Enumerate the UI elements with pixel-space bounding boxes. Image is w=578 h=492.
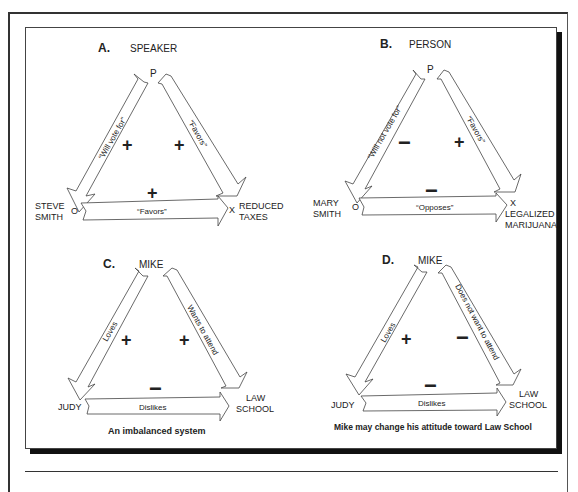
panel-title: SPEAKER (130, 43, 177, 54)
panel-d: D. MIKE Loves Does not want to attend Di… (331, 253, 547, 432)
panel-title: MIKE (418, 255, 443, 266)
right-node-line2: MARIJUANA (505, 220, 557, 230)
edge-label-bottom: Dislikes (418, 399, 446, 408)
sign-left: + (121, 330, 132, 350)
apex-label: P (427, 64, 434, 75)
edge-label-right: Wants to attend (185, 304, 220, 357)
sign-right: − (456, 325, 469, 350)
left-node-line2: SMITH (35, 212, 63, 222)
right-node-line2: SCHOOL (236, 404, 274, 414)
panel-a: A. SPEAKER P “Will vote for” “Favors” “F… (35, 41, 284, 226)
panel-c: C. MIKE Loves Wants to attend Dislikes +… (58, 257, 274, 436)
panel-letter: C. (103, 257, 115, 271)
right-node-line1: LAW (519, 389, 539, 399)
edge-label-bottom: Dislikes (139, 403, 167, 412)
right-node-mark: X (229, 205, 235, 215)
right-node-line1: REDUCED (239, 201, 284, 211)
caption: Mike may change his attitude toward Law … (334, 422, 532, 432)
sign-bottom: + (147, 183, 158, 203)
sign-right: + (174, 135, 185, 155)
left-node-line2: SMITH (313, 209, 341, 219)
left-node-line1: JUDY (58, 402, 82, 412)
right-node-line1: LAW (246, 393, 266, 403)
sign-bottom: − (424, 373, 437, 398)
panel-title: MIKE (139, 259, 164, 270)
panel-letter: A. (98, 41, 110, 55)
sign-right: + (454, 132, 465, 152)
edge-label-bottom: “Opposes” (416, 203, 454, 212)
panel-b: B. PERSON P “Will not vote for” “Favors”… (313, 37, 557, 230)
panel-letter: B. (380, 37, 392, 51)
left-node-line1: MARY (313, 198, 339, 208)
sign-left: + (122, 135, 133, 155)
apex-label: P (150, 68, 157, 79)
caption: An imbalanced system (108, 426, 206, 436)
edge-label-bottom: “Favors” (137, 207, 167, 216)
sign-right: + (179, 330, 190, 350)
panel-letter: D. (382, 253, 394, 267)
sign-left: + (401, 329, 412, 349)
sign-bottom: − (425, 178, 438, 203)
sign-bottom: − (149, 376, 162, 401)
right-node-line1: LEGALIZED (505, 209, 555, 219)
right-node-line2: TAXES (239, 212, 268, 222)
left-node-mark: O (352, 202, 359, 212)
right-node-line2: SCHOOL (509, 400, 547, 410)
panel-title: PERSON (409, 39, 451, 50)
right-node-mark: X (510, 198, 516, 208)
sign-left: − (398, 130, 411, 155)
left-node-mark: O (71, 206, 78, 216)
left-node-line1: STEVE (35, 201, 65, 211)
left-node-line1: JUDY (331, 400, 355, 410)
